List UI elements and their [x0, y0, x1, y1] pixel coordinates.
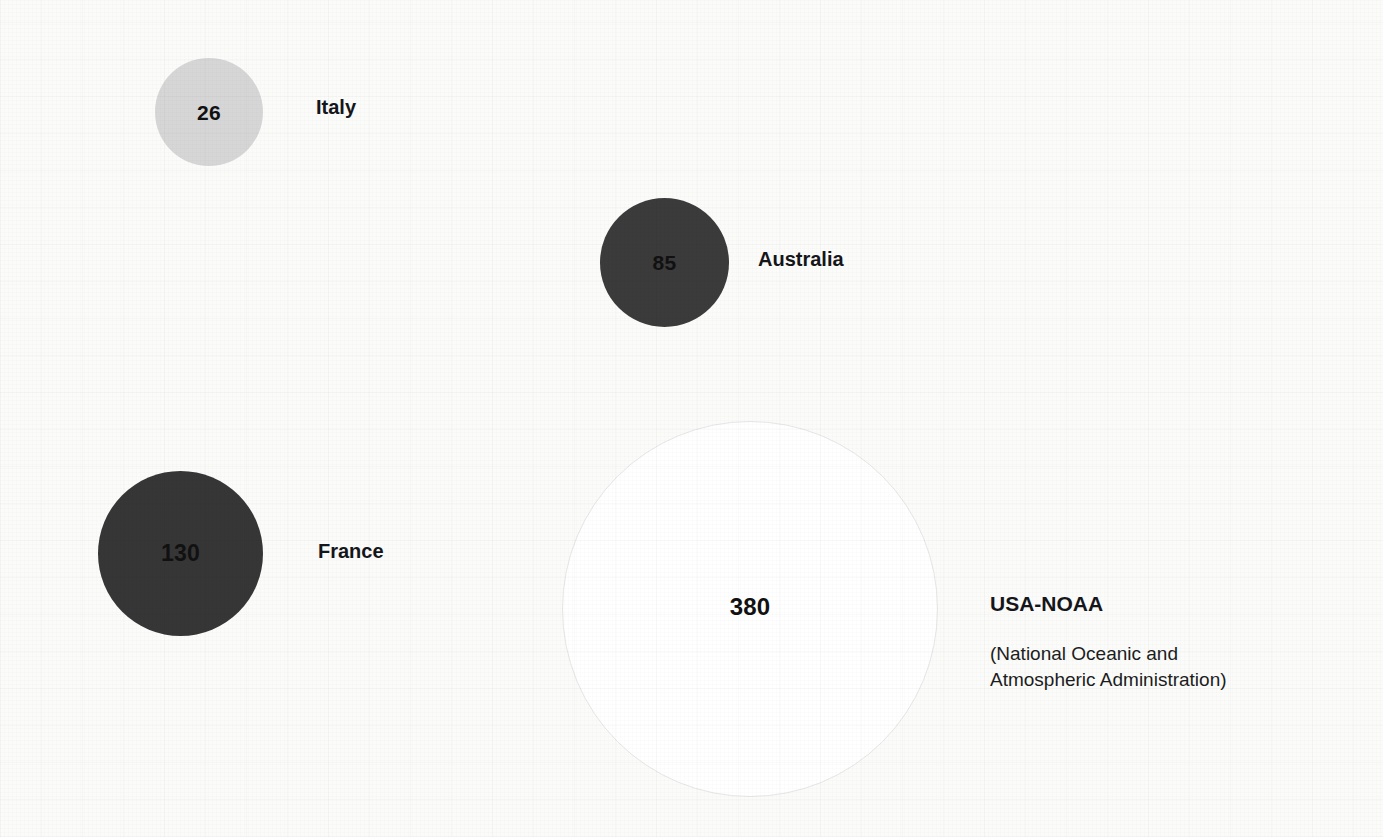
- bubble-australia[interactable]: 85: [600, 198, 729, 327]
- bubble-label-france: France: [318, 540, 384, 562]
- bubble-label-usa-noaa: USA-NOAA: [990, 592, 1103, 616]
- bubble-value-italy: 26: [197, 102, 221, 123]
- bubble-value-usa-noaa: 380: [730, 595, 771, 619]
- bubble-value-australia: 85: [653, 252, 677, 273]
- bubble-italy[interactable]: 26: [155, 58, 263, 166]
- bubble-label-australia: Australia: [758, 248, 844, 270]
- bubble-chart: 26 Italy 85 Australia 130 France 380 USA…: [0, 0, 1383, 837]
- bubble-usa-noaa[interactable]: 380: [562, 421, 938, 797]
- bubble-value-france: 130: [161, 542, 200, 565]
- bubble-france[interactable]: 130: [98, 471, 263, 636]
- bubble-sublabel-usa-noaa: (National Oceanic and Atmospheric Admini…: [990, 641, 1227, 693]
- bubble-label-italy: Italy: [316, 96, 356, 118]
